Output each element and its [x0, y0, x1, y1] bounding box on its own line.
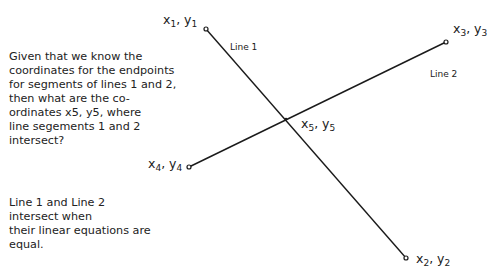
intersection-marker — [285, 118, 288, 121]
point-1-label: x1, y1 — [163, 12, 197, 29]
point-3-label: x3, y3 — [453, 21, 487, 38]
endpoint-4-marker — [187, 165, 191, 169]
line-2-label: Line 2 — [430, 69, 457, 79]
line-1-label: Line 1 — [230, 42, 257, 52]
line-intersection-diagram: Line 1 Line 2 x1, y1 x2, y2 x3, y3 x4, y… — [0, 0, 495, 271]
endpoint-2-marker — [404, 256, 408, 260]
point-4-label: x4, y4 — [148, 156, 183, 173]
endpoint-3-marker — [444, 40, 448, 44]
point-5-label: x5, y5 — [301, 116, 335, 133]
point-2-label: x2, y2 — [416, 251, 450, 268]
line-2-segment — [189, 42, 446, 167]
endpoint-1-marker — [204, 27, 208, 31]
